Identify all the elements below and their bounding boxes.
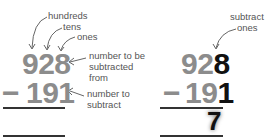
ones-label: ones [77, 32, 98, 42]
result-digit: 7 [207, 106, 221, 137]
minuend-label-line3: from [89, 73, 108, 83]
subtrahend-gray-digits: 19 [185, 76, 217, 109]
hundreds-label: hundreds [48, 11, 88, 21]
bottom-line-right [160, 135, 223, 137]
minuend-number-right: 928 [181, 49, 230, 79]
subtrahend-label-line2: subtract [87, 100, 121, 110]
step-label-line2: ones [237, 23, 258, 33]
subtrahend-number: 191 [26, 78, 75, 108]
answer-line [3, 107, 65, 109]
minus-operator-right: − [163, 78, 180, 108]
minus-operator: − [2, 78, 19, 108]
minuend-number: 928 [22, 49, 71, 79]
bottom-line [3, 135, 65, 137]
subtrahend-label-line1: number to [87, 89, 130, 99]
step-label-line1: subtract [230, 12, 264, 22]
subtrahend-number-right: 191 [185, 78, 234, 108]
minuend-label-line1: number to be [89, 51, 145, 61]
minuend-label-line2: subtracted [89, 62, 133, 72]
subtrahend-ones-digit: 1 [217, 76, 233, 109]
